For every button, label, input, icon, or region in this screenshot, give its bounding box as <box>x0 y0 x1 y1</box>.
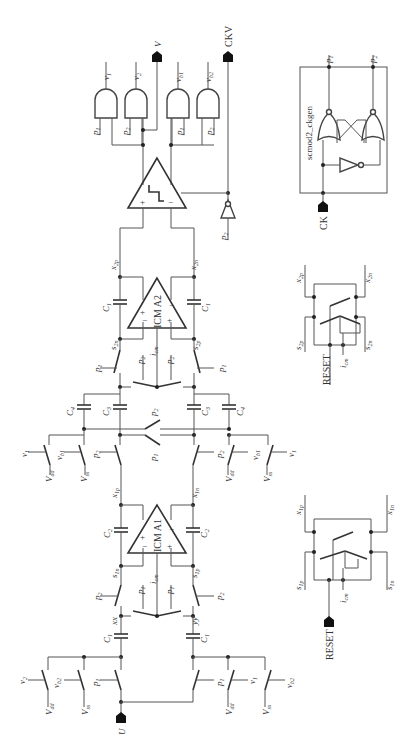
svg-text:v1: v1 <box>247 677 258 684</box>
svg-text:v2: v2 <box>131 73 142 80</box>
svg-text:p2: p2 <box>164 357 175 366</box>
schematic: V CKV v1 v2 vb1 vb2 p1 p2 p1 p2 + − p2 x… <box>0 0 406 749</box>
svg-text:xx: xx <box>109 617 119 626</box>
svg-text:C2: C2 <box>102 529 113 538</box>
svg-text:s2p: s2p <box>190 340 201 350</box>
label-icm-a1: ICM A1 <box>152 519 163 552</box>
svg-text:v1: v1 <box>286 450 297 457</box>
label-icm-a2: ICM A2 <box>152 295 163 328</box>
comparator: + − <box>128 158 186 208</box>
svg-text:s1n: s1n <box>109 568 120 578</box>
svg-text:vb2: vb2 <box>203 72 214 82</box>
svg-text:Vss: Vss <box>262 471 273 482</box>
svg-text:p2: p2 <box>214 451 225 460</box>
svg-text:p1: p1 <box>148 454 159 463</box>
svg-text:x1n: x1n <box>189 488 200 499</box>
port-U <box>116 712 126 723</box>
svg-text:−: − <box>169 524 174 534</box>
port-CK <box>318 201 328 212</box>
svg-text:x1p: x1p <box>109 488 120 499</box>
svg-text:Vdd: Vdd <box>44 703 55 716</box>
svg-text:icm: icm <box>148 346 159 356</box>
svg-text:s2n: s2n <box>362 340 373 350</box>
ckgen-block: p1 p2 scmod2_ckgen <box>300 55 387 195</box>
svg-text:Vdd: Vdd <box>224 703 235 716</box>
svg-text:Vss: Vss <box>79 471 90 482</box>
svg-text:p2: p2 <box>120 128 131 137</box>
svg-text:C1: C1 <box>200 303 211 312</box>
svg-text:p1: p1 <box>135 587 146 596</box>
svg-text:C3: C3 <box>101 407 112 416</box>
svg-text:p1: p1 <box>323 56 334 65</box>
svg-text:C1: C1 <box>199 634 210 643</box>
svg-text:x2p: x2p <box>108 260 119 271</box>
svg-text:x2n: x2n <box>188 260 199 271</box>
svg-text:icm: icm <box>338 358 349 368</box>
reset-switch-block-2 <box>305 265 365 385</box>
svg-text:C2: C2 <box>199 529 210 538</box>
svg-text:s2p: s2p <box>293 340 304 350</box>
svg-text:+: + <box>140 197 145 207</box>
svg-text:v2: v2 <box>17 677 28 684</box>
svg-text:s1p: s1p <box>189 568 200 578</box>
svg-text:p1: p1 <box>214 679 225 688</box>
svg-text:v1: v1 <box>101 73 112 80</box>
svg-text:p1: p1 <box>174 128 185 137</box>
svg-text:p1: p1 <box>90 679 101 688</box>
svg-text:p1: p1 <box>92 365 103 374</box>
label-reset-2: RESET <box>321 354 332 385</box>
svg-text:p2: p2 <box>214 593 225 602</box>
svg-text:C4: C4 <box>235 407 246 416</box>
svg-text:s2n: s2n <box>108 340 119 350</box>
svg-text:C1: C1 <box>101 303 112 312</box>
svg-text:p1: p1 <box>90 128 101 137</box>
svg-text:Vdd: Vdd <box>44 470 55 483</box>
port-V <box>152 51 162 62</box>
label-CK: CK <box>318 215 329 230</box>
svg-text:Vdd: Vdd <box>224 470 235 483</box>
svg-text:C1: C1 <box>102 634 113 643</box>
amplifier-a2: + − − + ICM A2 <box>128 278 186 328</box>
svg-text:p2: p2 <box>367 56 378 65</box>
svg-text:vb2: vb2 <box>51 678 62 688</box>
svg-text:s1p: s1p <box>293 580 304 590</box>
svg-text:p2: p2 <box>204 128 215 137</box>
svg-text:C4: C4 <box>65 407 76 416</box>
port-reset-1 <box>324 616 334 627</box>
svg-text:Vss: Vss <box>80 704 91 715</box>
label-reset-1: RESET <box>324 629 335 660</box>
svg-text:v1: v1 <box>19 450 30 457</box>
svg-text:−: − <box>168 197 173 207</box>
port-CKV <box>223 51 233 62</box>
svg-text:p2: p2 <box>218 233 229 242</box>
label-CKV: CKV <box>223 25 234 47</box>
svg-text:vb2: vb2 <box>284 678 295 688</box>
svg-text:p2: p2 <box>135 357 146 366</box>
svg-text:x1p: x1p <box>293 505 304 516</box>
svg-text:p2: p2 <box>148 409 159 418</box>
amplifier-a1: + − − + ICM A1 <box>128 505 186 553</box>
svg-text:x2p: x2p <box>293 273 304 284</box>
svg-text:vb1: vb1 <box>54 450 65 460</box>
svg-text:p1: p1 <box>164 587 175 596</box>
svg-text:p2: p2 <box>92 593 103 602</box>
svg-text:icm: icm <box>148 574 159 584</box>
svg-text:C3: C3 <box>200 407 211 416</box>
svg-text:Vss: Vss <box>261 704 272 715</box>
svg-text:vb1: vb1 <box>250 450 261 460</box>
svg-text:p2: p2 <box>90 451 101 460</box>
svg-text:vb1: vb1 <box>173 72 184 82</box>
svg-text:−: − <box>169 300 174 310</box>
svg-text:p1: p1 <box>216 365 227 374</box>
label-ckgen: scmod2_ckgen <box>304 106 314 160</box>
svg-text:x2n: x2n <box>362 273 373 284</box>
label-U: U <box>117 728 127 735</box>
svg-text:x1n: x1n <box>384 505 395 516</box>
svg-text:s1n: s1n <box>384 580 395 590</box>
label-V: V <box>153 40 163 47</box>
svg-text:icm: icm <box>338 593 349 603</box>
svg-text:yy: yy <box>189 617 199 626</box>
